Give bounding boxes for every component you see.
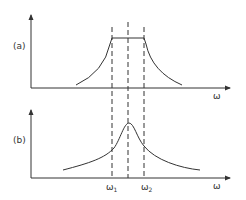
omega1-label: ω1	[106, 182, 118, 193]
panel-a-axes	[31, 15, 230, 88]
panel-a-label: (a)	[13, 41, 26, 51]
panel-b-x-label: ω	[213, 181, 221, 191]
panel-b-curve	[63, 123, 200, 170]
panel-a-x-label: ω	[213, 91, 221, 101]
diagram: (a) ω (b) ω ω1 ω2	[0, 0, 246, 200]
omega2-label: ω2	[141, 182, 153, 193]
dashed-markers	[112, 22, 144, 178]
panel-b-label: (b)	[13, 135, 26, 145]
panel-a-curve	[76, 38, 182, 85]
panel-b-axes	[31, 110, 230, 178]
